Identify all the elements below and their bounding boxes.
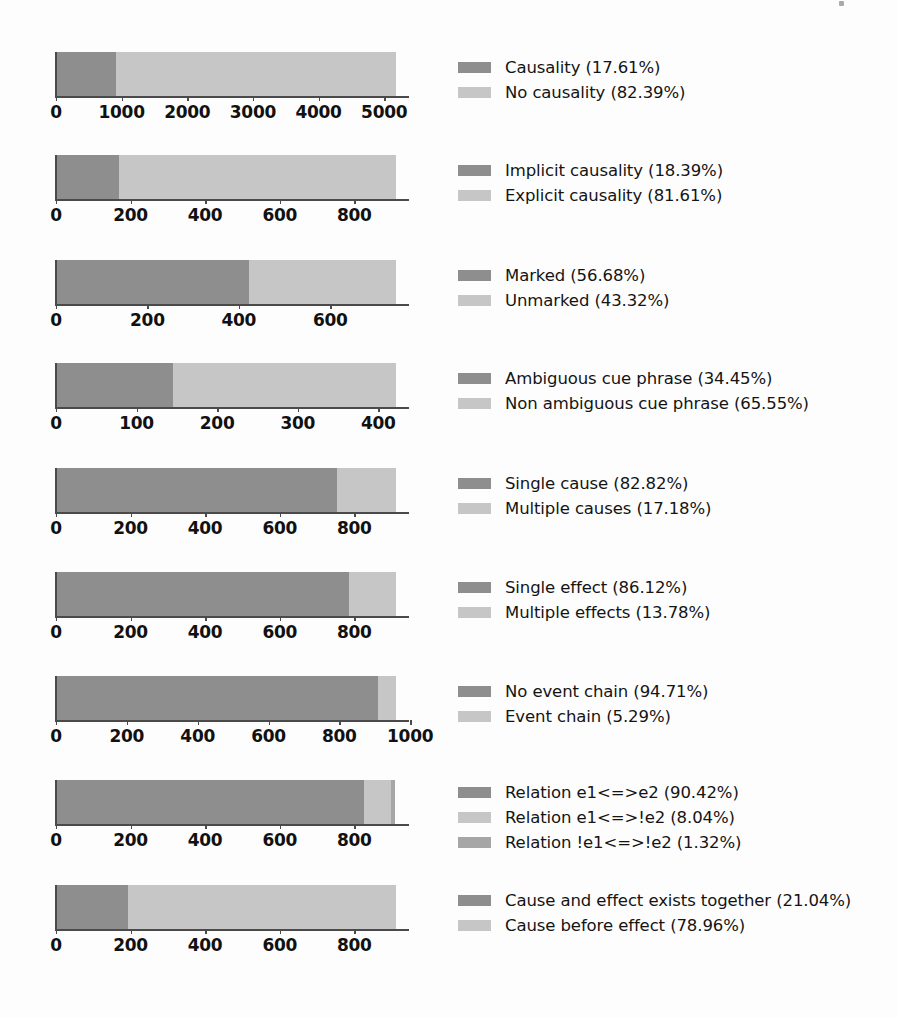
legend-item-label: No causality (82.39%) [505, 83, 685, 102]
legend-item[interactable]: Cause before effect (78.96%) [458, 913, 888, 938]
x-axis-tick-label: 300 [280, 413, 315, 433]
x-axis-tick [217, 407, 218, 412]
legend-swatch-icon [458, 711, 491, 722]
x-axis-tick [56, 929, 57, 934]
legend-item[interactable]: Explicit causality (81.61%) [458, 183, 888, 208]
legend-item-label: Marked (56.68%) [505, 266, 645, 285]
legend: Single cause (82.82%)Multiple causes (17… [458, 471, 888, 521]
y-axis-spine [55, 676, 57, 720]
bar-segment [56, 676, 378, 720]
legend-item-label: Explicit causality (81.61%) [505, 186, 722, 205]
x-axis-tick [354, 512, 355, 517]
legend-item[interactable]: Cause and effect exists together (21.04%… [458, 888, 888, 913]
plot-area: 0200400600800 [56, 155, 396, 199]
legend-item-label: Relation e1<=>!e2 (8.04%) [505, 808, 735, 827]
legend-swatch-icon [458, 62, 491, 73]
legend-swatch-icon [458, 398, 491, 409]
x-axis-tick [205, 929, 206, 934]
stacked-bar [56, 52, 396, 96]
legend-item[interactable]: Event chain (5.29%) [458, 704, 888, 729]
legend-item[interactable]: No causality (82.39%) [458, 80, 888, 105]
legend-item-label: Causality (17.61%) [505, 58, 660, 77]
x-axis-tick-label: 400 [188, 830, 223, 850]
legend-item[interactable]: Ambiguous cue phrase (34.45%) [458, 366, 888, 391]
x-axis-tick-label: 0 [50, 413, 62, 433]
legend-swatch-icon [458, 165, 491, 176]
bar-segment [56, 885, 128, 929]
legend-swatch-icon [458, 895, 491, 906]
x-axis-tick-label: 0 [50, 726, 62, 746]
x-axis-tick [56, 199, 57, 204]
bar-segment [56, 468, 337, 512]
plot-area: 0100200300400 [56, 363, 396, 407]
x-axis-tick-label: 600 [262, 205, 297, 225]
x-axis-tick-label: 200 [113, 205, 148, 225]
x-axis-tick-label: 600 [262, 622, 297, 642]
x-axis-tick-label: 4000 [295, 102, 341, 122]
legend-item[interactable]: Relation e1<=>e2 (90.42%) [458, 780, 888, 805]
bar-segment [116, 52, 396, 96]
bar-segment [56, 363, 173, 407]
y-axis-spine [55, 260, 57, 304]
x-axis-tick [131, 929, 132, 934]
x-axis-line [55, 720, 409, 722]
figure-page: 010002000300040005000Causality (17.61%)N… [0, 0, 897, 1017]
legend-swatch-icon [458, 270, 491, 281]
x-axis-tick [56, 407, 57, 412]
legend-swatch-icon [458, 478, 491, 489]
x-axis-tick [354, 199, 355, 204]
legend: No event chain (94.71%)Event chain (5.29… [458, 679, 888, 729]
plot-area: 0200400600800 [56, 885, 396, 929]
plot-area: 0200400600800 [56, 572, 396, 616]
bar-segment [349, 572, 396, 616]
legend-item-label: Multiple causes (17.18%) [505, 499, 711, 518]
legend-item[interactable]: Unmarked (43.32%) [458, 288, 888, 313]
bar-segment [56, 572, 349, 616]
legend-swatch-icon [458, 607, 491, 618]
legend-swatch-icon [458, 837, 491, 848]
legend-item[interactable]: Marked (56.68%) [458, 263, 888, 288]
legend-item[interactable]: Relation e1<=>!e2 (8.04%) [458, 805, 888, 830]
x-axis-tick [410, 720, 411, 725]
legend-swatch-icon [458, 812, 491, 823]
legend-item[interactable]: No event chain (94.71%) [458, 679, 888, 704]
x-axis-tick [239, 304, 240, 309]
plot-area: 0200400600800 [56, 468, 396, 512]
x-axis-tick-label: 600 [262, 518, 297, 538]
x-axis-tick-label: 1000 [387, 726, 433, 746]
y-axis-spine [55, 52, 57, 96]
legend-item-label: Relation !e1<=>!e2 (1.32%) [505, 833, 741, 852]
legend-item[interactable]: Single effect (86.12%) [458, 575, 888, 600]
x-axis-tick [56, 824, 57, 829]
legend: Ambiguous cue phrase (34.45%)Non ambiguo… [458, 366, 888, 416]
stacked-bar [56, 572, 396, 616]
legend-item[interactable]: Multiple causes (17.18%) [458, 496, 888, 521]
legend-item[interactable]: Implicit causality (18.39%) [458, 158, 888, 183]
legend-item[interactable]: Relation !e1<=>!e2 (1.32%) [458, 830, 888, 855]
bar-segment [391, 780, 395, 824]
x-axis-tick [56, 96, 57, 101]
x-axis-tick-label: 400 [188, 935, 223, 955]
x-axis-tick-label: 200 [113, 518, 148, 538]
x-axis-tick [131, 512, 132, 517]
x-axis-tick [280, 824, 281, 829]
x-axis-tick-label: 0 [50, 102, 62, 122]
x-axis-tick [269, 720, 270, 725]
x-axis-tick-label: 0 [50, 935, 62, 955]
legend-item[interactable]: Single cause (82.82%) [458, 471, 888, 496]
y-axis-spine [55, 572, 57, 616]
bar-segment [128, 885, 396, 929]
legend-item[interactable]: Causality (17.61%) [458, 55, 888, 80]
x-axis-line [55, 199, 409, 201]
bar-segment [173, 363, 396, 407]
x-axis-tick [56, 512, 57, 517]
x-axis-line [55, 304, 409, 306]
x-axis-tick [280, 199, 281, 204]
legend-item-label: Single cause (82.82%) [505, 474, 688, 493]
bar-segment [249, 260, 396, 304]
y-axis-spine [55, 468, 57, 512]
legend-item[interactable]: Multiple effects (13.78%) [458, 600, 888, 625]
legend-item[interactable]: Non ambiguous cue phrase (65.55%) [458, 391, 888, 416]
legend-item-label: Ambiguous cue phrase (34.45%) [505, 369, 772, 388]
stacked-bar [56, 468, 396, 512]
